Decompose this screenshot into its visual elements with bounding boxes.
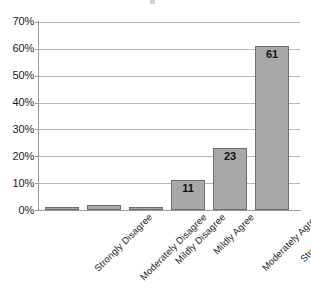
x-axis-line [38, 210, 301, 211]
bars-layer: 11 23 61 [38, 22, 300, 210]
bar-value-label: 23 [213, 151, 247, 162]
y-tick-label: 50% [0, 70, 34, 81]
bar-value-label: 11 [171, 183, 205, 194]
bar-slot: 23 [210, 22, 250, 210]
y-tick-label: 20% [0, 151, 34, 162]
bar-moderately-disagree[interactable] [87, 205, 121, 210]
y-tick-label: 70% [0, 16, 34, 27]
scan-artifact-mark [150, 0, 155, 4]
bar-slot [126, 22, 166, 210]
bar-strongly-disagree[interactable] [45, 207, 79, 210]
y-axis-tick-labels: 70% 60% 50% 40% 30% 20% 10% 0% [0, 22, 34, 210]
bar-value-label: 61 [255, 49, 289, 60]
bar-chart: 70% 60% 50% 40% 30% 20% 10% 0% [0, 0, 311, 292]
bar-slot [42, 22, 82, 210]
bar-slot: 11 [168, 22, 208, 210]
y-tick-label: 0% [0, 205, 34, 216]
bar-strongly-agree[interactable] [255, 46, 289, 210]
y-tick-label: 10% [0, 178, 34, 189]
y-tick-label: 30% [0, 124, 34, 135]
bar-slot [84, 22, 124, 210]
bar-mildly-disagree[interactable] [129, 207, 163, 210]
bar-slot: 61 [252, 22, 292, 210]
x-axis-category-labels: Strongly Disagree Moderately Disagree Mi… [38, 212, 311, 292]
category-label-moderately-agree: Moderately Agree [260, 212, 311, 273]
y-tick-label: 40% [0, 97, 34, 108]
y-tick-label: 60% [0, 43, 34, 54]
category-label-strongly-disagree: Strongly Disagree [93, 212, 155, 274]
